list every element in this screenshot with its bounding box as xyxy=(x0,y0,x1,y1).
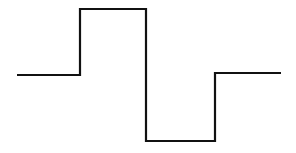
waveform-diagram xyxy=(0,0,296,153)
background xyxy=(0,0,296,153)
